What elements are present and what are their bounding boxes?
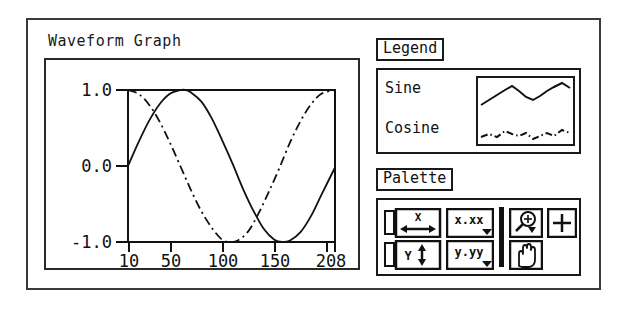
legend-plot-samples[interactable]: [476, 76, 575, 146]
palette-divider: [499, 207, 504, 267]
x-horizontal-arrows-icon: X: [384, 208, 442, 238]
x-format-label: x.xx: [455, 213, 484, 227]
y-tick-label-1: 1.0: [81, 80, 112, 100]
x-tick-label-100: 100: [208, 251, 239, 268]
legend-sample-sine: [481, 83, 570, 105]
legend-sample-canvas: [478, 78, 573, 144]
x-tick-label-10: 10: [119, 251, 139, 268]
y-format-button[interactable]: y.yy: [446, 240, 494, 270]
palette-tab-label[interactable]: Palette: [376, 168, 453, 191]
svg-text:Y: Y: [404, 249, 412, 263]
cursor-tool-button[interactable]: [547, 208, 577, 238]
x-tick-label-208: 208: [316, 251, 347, 268]
plot-canvas[interactable]: 1.0 0.0 -1.0: [46, 60, 358, 268]
hand-icon: [509, 240, 543, 270]
legend-tab-label[interactable]: Legend: [376, 38, 444, 61]
x-scale-lock-button[interactable]: X: [384, 208, 442, 238]
y-format-label: y.yy: [455, 245, 484, 259]
x-tick-label-50: 50: [161, 251, 181, 268]
series-line-sine: [128, 90, 335, 242]
zoom-tool-button[interactable]: [509, 208, 543, 238]
plot-area-border: [128, 90, 335, 242]
front-panel: Waveform Graph 1.0 0.0 -1.0: [26, 18, 601, 290]
legend-panel[interactable]: Sine Cosine: [376, 68, 581, 154]
legend-entry-sine[interactable]: Sine: [385, 79, 421, 97]
y-tick-label-0: 0.0: [81, 156, 112, 176]
page-title: Waveform Graph: [48, 32, 181, 50]
legend-entry-cosine[interactable]: Cosine: [385, 119, 439, 137]
x-tick-label-150: 150: [260, 251, 291, 268]
x-format-button[interactable]: x.xx: [446, 208, 494, 238]
graph-plot-frame[interactable]: 1.0 0.0 -1.0: [44, 58, 360, 270]
y-format-dropdown-icon: y.yy: [446, 240, 494, 270]
y-scale-lock-button[interactable]: Y: [384, 240, 442, 270]
y-vertical-arrows-icon: Y: [384, 240, 442, 270]
x-format-dropdown-icon: x.xx: [446, 208, 494, 238]
series-line-cosine: [128, 90, 335, 242]
svg-text:X: X: [415, 211, 422, 224]
y-tick-label-neg1: -1.0: [71, 232, 112, 252]
legend-sample-cosine: [481, 130, 570, 139]
pan-tool-button[interactable]: [509, 240, 543, 270]
palette-panel[interactable]: X x.xx: [376, 198, 581, 276]
waveform-graph[interactable]: Waveform Graph 1.0 0.0 -1.0: [42, 28, 364, 280]
crosshair-icon: [547, 208, 577, 238]
magnifier-plus-icon: [509, 208, 543, 238]
